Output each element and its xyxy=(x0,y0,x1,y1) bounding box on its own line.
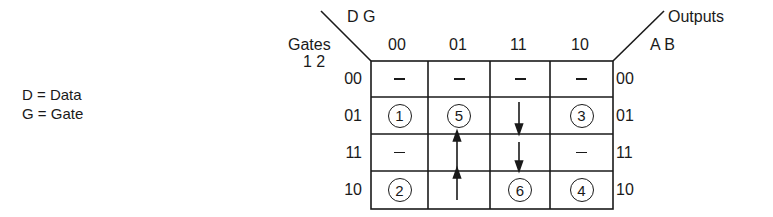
column-header: 11 xyxy=(510,36,527,54)
cell-dont-care xyxy=(371,61,428,97)
state-circle: 2 xyxy=(388,178,412,202)
row-header: 10 xyxy=(322,181,362,199)
cell-stable-state: 3 xyxy=(550,97,613,134)
cell-stable-state: 1 xyxy=(371,97,428,134)
arrow-down-icon xyxy=(516,102,523,171)
output-label: 11 xyxy=(616,144,633,162)
output-label: 10 xyxy=(616,181,634,199)
row-header: 00 xyxy=(322,70,362,88)
column-header: 01 xyxy=(449,36,467,54)
column-var-label: D G xyxy=(347,8,375,26)
column-header: 00 xyxy=(388,36,406,54)
cell-dont-care xyxy=(550,134,613,171)
output-label: 01 xyxy=(616,107,634,125)
output-var-label: A B xyxy=(650,36,675,54)
arrow-up-icon xyxy=(454,131,461,200)
state-circle: 6 xyxy=(508,178,532,202)
column-header: 10 xyxy=(571,36,589,54)
state-circle: 4 xyxy=(570,178,594,202)
output-label: 00 xyxy=(616,70,634,88)
cell-dont-care xyxy=(490,61,550,97)
cell-stable-state: 4 xyxy=(550,171,613,209)
state-circle: 3 xyxy=(570,104,594,128)
output-title: Outputs xyxy=(668,8,724,26)
cell-dont-care xyxy=(371,134,428,171)
cell-stable-state: 6 xyxy=(490,171,550,209)
row-header: 01 xyxy=(322,107,362,125)
state-circle: 5 xyxy=(447,104,471,128)
cell-stable-state: 2 xyxy=(371,171,428,209)
cell-dont-care xyxy=(550,61,613,97)
row-header: 11 xyxy=(322,144,362,162)
cell-stable-state: 5 xyxy=(428,97,490,134)
row-var-title: Gates xyxy=(288,36,331,54)
row-var-label: 1 2 xyxy=(303,53,325,71)
state-circle: 1 xyxy=(388,104,412,128)
cell-dont-care xyxy=(428,61,490,97)
